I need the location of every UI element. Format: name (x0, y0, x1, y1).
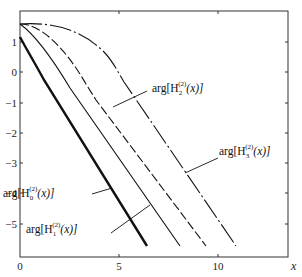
bessel-phase-chart: 1 0 −1 −2 −3 −4 −5 0 5 10 x arg[H2(2)(x)… (0, 0, 302, 277)
x-tick-label: 5 (116, 260, 122, 272)
series-h3-line (20, 24, 236, 246)
annotation-h1: arg[H1(2)(x)] (26, 221, 78, 238)
series-lines (20, 24, 236, 246)
x-axis (119, 11, 218, 257)
y-tick-labels: 1 0 −1 −2 −3 −4 −5 (5, 36, 17, 230)
y-tick-label: 1 (12, 36, 18, 48)
y-tick-label: −5 (5, 218, 17, 230)
y-axis (20, 42, 288, 224)
series-h2-line (20, 24, 206, 246)
annotation-h2: arg[H2(2)(x)] (152, 80, 204, 97)
y-tick-label: −2 (5, 127, 17, 139)
x-axis-label: x (290, 259, 297, 273)
y-tick-label: −1 (5, 97, 17, 109)
annotation-leaders (92, 91, 218, 233)
x-tick-labels: 0 5 10 (17, 260, 224, 272)
x-tick-label: 10 (213, 260, 225, 272)
y-tick-label: −3 (5, 157, 17, 169)
series-h1-line (20, 24, 180, 246)
x-tick-label: 0 (17, 260, 23, 272)
annotation-h3: arg[H3(2)(x)] (219, 143, 271, 160)
y-tick-label: 0 (12, 66, 18, 78)
annotation-h0: arg[H0(2)(x)] (3, 185, 55, 202)
